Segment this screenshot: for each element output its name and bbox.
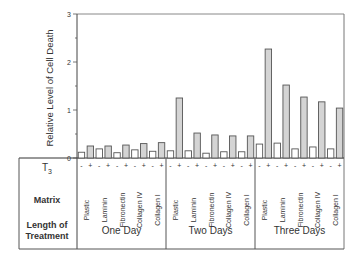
row-label-length-line1: Length of [27, 220, 69, 230]
t3-sign: + [106, 162, 110, 169]
t3-sign: - [98, 162, 101, 169]
bar [310, 147, 316, 158]
matrix-label: Plastic [83, 199, 90, 220]
bar [114, 153, 120, 158]
bars [78, 49, 343, 158]
bar [212, 135, 218, 158]
bar [256, 144, 262, 158]
matrix-label: Collagen I [332, 194, 340, 226]
y-tick-label: 3 [67, 11, 71, 18]
t3-sign: - [116, 162, 119, 169]
matrix-label: Laminin [279, 198, 286, 223]
t3-sign: - [240, 162, 243, 169]
bar [105, 146, 111, 158]
t3-sign: + [142, 162, 146, 169]
y-tick-label: 0 [67, 155, 71, 162]
t3-sign: - [312, 162, 315, 169]
matrix-label: Fibronectin [208, 193, 215, 228]
t3-sign: - [276, 162, 279, 169]
bar [265, 49, 271, 158]
t3-sign: + [160, 162, 164, 169]
t3-sign: - [80, 162, 83, 169]
matrix-label: Collagen I [154, 194, 162, 226]
bar [203, 153, 209, 158]
bar [336, 108, 342, 158]
t3-sign: + [302, 162, 306, 169]
t3-sign: + [195, 162, 199, 169]
matrix-label: Collagen IV [314, 192, 322, 229]
bar [247, 136, 253, 158]
bar [238, 152, 244, 158]
bar [78, 152, 84, 158]
bar [141, 144, 147, 158]
bar [230, 136, 236, 158]
bar [274, 143, 280, 158]
row-label-length-line2: Treatment [25, 231, 68, 241]
bar [301, 97, 307, 158]
t3-sign: - [134, 162, 137, 169]
row-label-matrix: Matrix [34, 195, 61, 205]
bar [185, 151, 191, 158]
matrix-label: Collagen I [243, 194, 251, 226]
condition-table: -+Plastic-+Laminin-+Fibronectin-+Collage… [25, 162, 341, 241]
bar [149, 151, 155, 158]
t3-sign: - [187, 162, 190, 169]
bar [292, 149, 298, 158]
y-tick-label: 1 [67, 107, 71, 114]
t3-sign: + [320, 162, 324, 169]
bar [132, 150, 138, 158]
matrix-label: Fibronectin [297, 193, 304, 228]
t3-sign: - [205, 162, 208, 169]
bar [158, 143, 164, 158]
matrix-label: Plastic [261, 199, 268, 220]
bar [221, 152, 227, 158]
t3-sign: + [177, 162, 181, 169]
t3-sign: - [151, 162, 154, 169]
t3-sign: + [213, 162, 217, 169]
matrix-label: Fibronectin [119, 193, 126, 228]
matrix-label: Collagen IV [225, 192, 233, 229]
length-of-treatment-label: Two Days [189, 225, 233, 236]
bar [194, 133, 200, 158]
length-of-treatment-label: One Day [102, 225, 141, 236]
t3-sign: - [169, 162, 172, 169]
t3-sign: + [266, 162, 270, 169]
t3-sign: - [294, 162, 297, 169]
y-axis-label: Relative Level of Cell Death [44, 29, 55, 146]
length-of-treatment-label: Three Days [274, 225, 326, 236]
matrix-label: Laminin [190, 198, 197, 223]
bar [176, 98, 182, 158]
y-tick-label: 2 [67, 59, 71, 66]
t3-sign: + [284, 162, 288, 169]
matrix-label: Laminin [101, 198, 108, 223]
bar [123, 145, 129, 158]
t3-sign: + [231, 162, 235, 169]
cell-death-chart: 0123 -+Plastic-+Laminin-+Fibronectin-+Co… [0, 0, 362, 262]
bar [87, 146, 93, 158]
bar [283, 85, 289, 158]
t3-sign: - [223, 162, 226, 169]
matrix-label: Collagen IV [136, 192, 144, 229]
bar [96, 149, 102, 158]
t3-sign: - [258, 162, 261, 169]
matrix-label: Plastic [172, 199, 179, 220]
row-label-t3: T3 [42, 162, 52, 175]
t3-sign: + [338, 162, 342, 169]
t3-sign: + [249, 162, 253, 169]
bar [327, 149, 333, 158]
bar [319, 102, 325, 158]
t3-sign: + [88, 162, 92, 169]
t3-sign: - [329, 162, 332, 169]
bar [167, 151, 173, 158]
t3-sign: + [124, 162, 128, 169]
